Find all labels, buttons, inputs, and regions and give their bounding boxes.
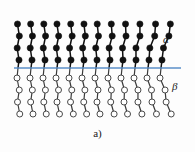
alpha-bead: [81, 21, 87, 27]
beta-bead: [30, 111, 36, 117]
polymer-chain: [157, 68, 174, 117]
polymer-chain: [40, 21, 48, 68]
beta-bead: [94, 99, 100, 105]
polymer-chain: [119, 21, 129, 68]
alpha-bead: [122, 21, 128, 27]
polymer-chain: [133, 21, 143, 68]
alpha-bead: [152, 21, 158, 27]
alpha-bead: [41, 21, 47, 27]
alpha-bead: [82, 33, 88, 39]
beta-bead: [163, 99, 169, 105]
figure-caption: a): [0, 128, 195, 139]
alpha-bead: [94, 57, 100, 63]
beta-bead: [135, 87, 141, 93]
polymer-chain: [106, 21, 115, 68]
beta-bead: [14, 75, 20, 81]
beta-bead: [118, 75, 124, 81]
beta-bead: [105, 75, 111, 81]
polymer-chain: [53, 21, 62, 68]
beta-bead: [162, 87, 168, 93]
alpha-bead: [80, 45, 86, 51]
polymer-chain: [27, 21, 35, 68]
beta-bead: [27, 75, 33, 81]
beta-bead: [17, 111, 23, 117]
beta-bead: [95, 87, 101, 93]
alpha-bead: [109, 33, 115, 39]
alpha-bead: [29, 57, 35, 63]
polymer-chain: [27, 68, 36, 117]
alpha-bead: [68, 57, 74, 63]
alpha-bead: [146, 57, 152, 63]
alpha-bead: [93, 45, 99, 51]
beta-bead: [139, 111, 145, 117]
alpha-bead: [95, 33, 101, 39]
polymer-chain: [146, 21, 159, 68]
alpha-bead: [123, 33, 129, 39]
beta-bead: [108, 99, 114, 105]
alpha-bead: [14, 45, 20, 51]
beta-bead: [108, 87, 114, 93]
beta-bead: [84, 111, 90, 117]
alpha-bead: [167, 21, 173, 27]
alpha-bead: [14, 21, 20, 27]
beta-bead: [41, 99, 47, 105]
beta-bead: [53, 75, 59, 81]
polymer-chain: [66, 68, 76, 117]
alpha-bead: [54, 21, 60, 27]
polymer-chain: [80, 21, 89, 68]
beta-bead: [69, 87, 75, 93]
alpha-bead: [119, 45, 125, 51]
alpha-bead: [133, 57, 139, 63]
polymer-chain: [53, 68, 62, 117]
beta-bead: [125, 111, 131, 117]
beta-bead: [92, 75, 98, 81]
alpha-bead: [42, 33, 48, 39]
figure-container: α β a): [0, 0, 195, 152]
beta-bead: [70, 111, 76, 117]
beta-bead: [135, 99, 141, 105]
polymer-chain: [131, 68, 145, 117]
beta-bead: [148, 87, 154, 93]
beta-bead: [28, 99, 34, 105]
alpha-bead: [94, 21, 100, 27]
beta-bead: [131, 75, 137, 81]
alpha-label: α: [163, 34, 169, 45]
beta-bead: [15, 99, 21, 105]
alpha-bead: [27, 45, 33, 51]
beta-bead: [111, 111, 117, 117]
alpha-bead: [42, 57, 48, 63]
beta-bead: [66, 75, 72, 81]
polymer-chain: [144, 68, 159, 117]
alpha-bead: [28, 21, 34, 27]
beta-bead: [16, 87, 22, 93]
beta-label: β: [172, 81, 177, 92]
beta-bead: [54, 99, 60, 105]
beta-bead: [81, 99, 87, 105]
polymer-chain: [92, 68, 103, 117]
alpha-bead: [147, 45, 153, 51]
alpha-bead: [106, 45, 112, 51]
beta-bead: [55, 87, 61, 93]
polymer-chain: [118, 68, 131, 117]
polymer-chain: [79, 68, 90, 117]
alpha-bead: [16, 57, 22, 63]
alpha-bead: [120, 57, 126, 63]
alpha-bead: [133, 45, 139, 51]
beta-bead: [144, 75, 150, 81]
beta-bead: [97, 111, 103, 117]
alpha-bead: [152, 33, 158, 39]
polymer-chain: [93, 21, 102, 68]
alpha-bead: [107, 57, 113, 63]
alpha-bead: [160, 45, 166, 51]
alpha-bead: [53, 45, 59, 51]
beta-bead: [43, 111, 49, 117]
beta-bead: [82, 87, 88, 93]
beta-chains-group: [14, 68, 174, 117]
alpha-bead: [137, 21, 143, 27]
beta-bead: [79, 75, 85, 81]
alpha-bead: [40, 45, 46, 51]
beta-bead: [56, 111, 62, 117]
alpha-bead: [159, 57, 165, 63]
alpha-bead: [68, 21, 74, 27]
beta-bead: [29, 87, 35, 93]
